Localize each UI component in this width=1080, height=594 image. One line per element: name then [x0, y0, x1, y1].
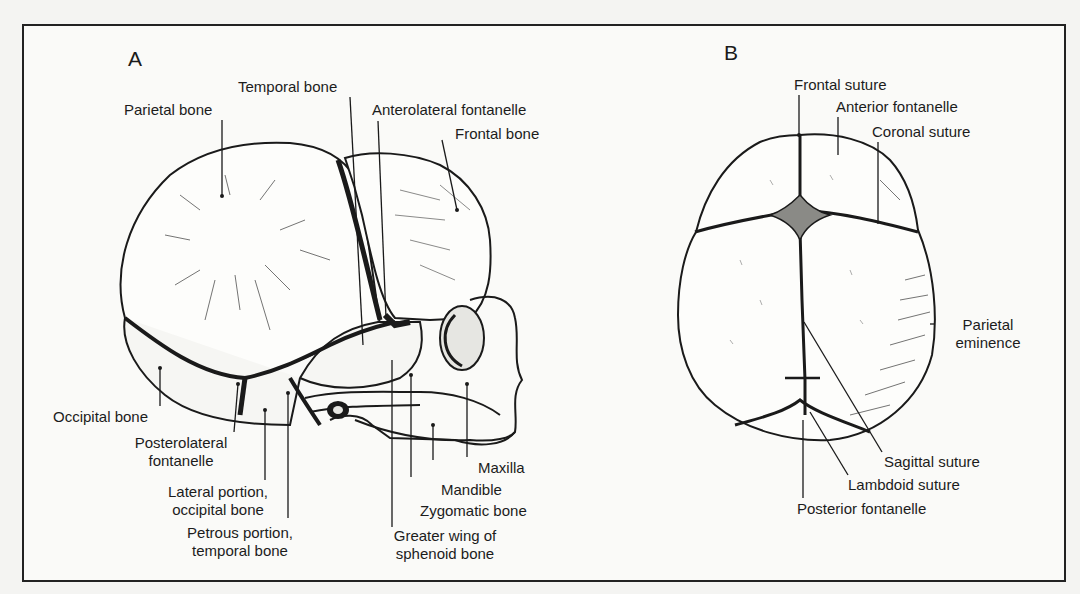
label-frontal-suture: Frontal suture	[794, 76, 887, 94]
label-line: Posterolateral	[126, 434, 236, 452]
lateral-skull-drawing	[121, 143, 522, 445]
label-line: Petrous portion,	[170, 524, 310, 542]
label-lateral-portion-occipital: Lateral portion, occipital bone	[148, 483, 288, 519]
label-line: fontanelle	[126, 452, 236, 470]
label-frontal-bone: Frontal bone	[455, 125, 539, 143]
label-posterior-fontanelle: Posterior fontanelle	[797, 500, 926, 518]
label-maxilla: Maxilla	[478, 459, 525, 477]
label-lambdoid-suture: Lambdoid suture	[848, 476, 960, 494]
label-parietal-bone: Parietal bone	[124, 101, 212, 119]
label-line: occipital bone	[148, 501, 288, 519]
panel-label-a: A	[128, 48, 142, 70]
label-line: sphenoid bone	[380, 545, 510, 563]
superior-skull-drawing	[678, 134, 935, 440]
label-greater-wing-sphenoid: Greater wing of sphenoid bone	[380, 527, 510, 563]
label-line: Parietal	[938, 316, 1038, 334]
label-anterolateral-fontanelle: Anterolateral fontanelle	[372, 101, 526, 119]
label-coronal-suture: Coronal suture	[872, 123, 970, 141]
label-line: temporal bone	[170, 542, 310, 560]
label-posterolateral-fontanelle: Posterolateral fontanelle	[126, 434, 236, 470]
panel-label-b: B	[724, 42, 738, 64]
label-zygomatic-bone: Zygomatic bone	[420, 502, 527, 520]
label-line: Greater wing of	[380, 527, 510, 545]
label-petrous-portion-temporal: Petrous portion, temporal bone	[170, 524, 310, 560]
label-parietal-eminence: Parietal eminence	[938, 316, 1038, 352]
label-sagittal-suture: Sagittal suture	[884, 453, 980, 471]
label-occipital-bone: Occipital bone	[53, 408, 148, 426]
label-line: Lateral portion,	[148, 483, 288, 501]
label-mandible: Mandible	[441, 481, 502, 499]
label-anterior-fontanelle: Anterior fontanelle	[836, 98, 958, 116]
label-line: eminence	[938, 334, 1038, 352]
label-temporal-bone: Temporal bone	[238, 78, 337, 96]
